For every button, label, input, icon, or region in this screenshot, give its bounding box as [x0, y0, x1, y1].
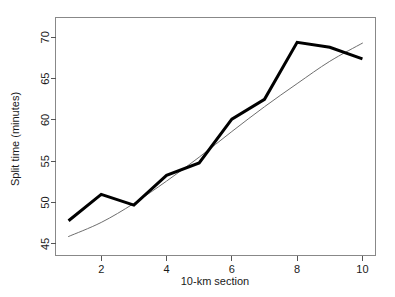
y-tick-label: 70 [40, 31, 52, 43]
y-tick-label: 60 [40, 114, 52, 126]
y-tick-label: 50 [40, 196, 52, 208]
x-tick-label: 2 [98, 263, 104, 275]
y-tick-label: 45 [40, 238, 52, 250]
x-tick-label: 4 [163, 263, 169, 275]
y-tick-label: 65 [40, 73, 52, 85]
x-axis-title: 10-km section [181, 275, 249, 287]
y-tick-label: 55 [40, 155, 52, 167]
x-tick-label: 6 [229, 263, 235, 275]
x-tick-label: 10 [356, 263, 368, 275]
x-tick-label: 8 [294, 263, 300, 275]
chart-figure: 455055606570 246810 10-km section Split … [0, 0, 395, 297]
split-time-line-chart: 455055606570 246810 10-km section Split … [0, 0, 395, 297]
chart-background [0, 0, 395, 297]
y-axis-title: Split time (minutes) [9, 92, 21, 186]
